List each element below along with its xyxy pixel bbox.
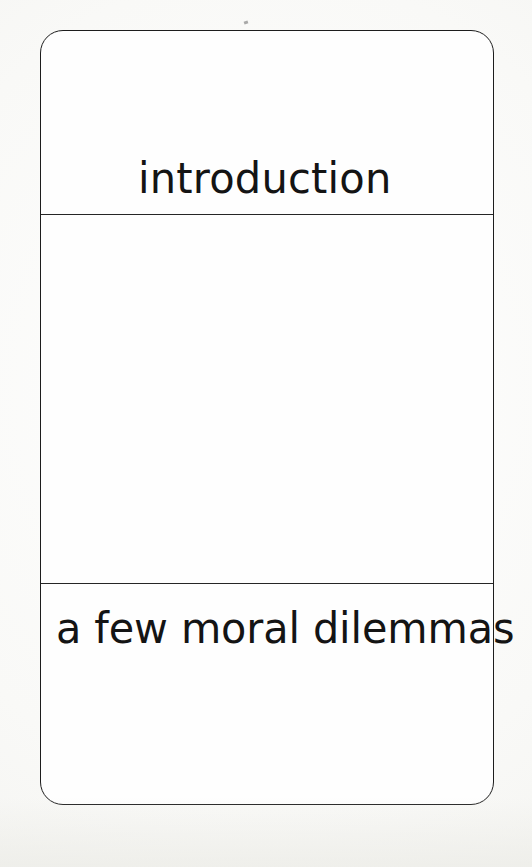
frame-band-middle (41, 215, 493, 583)
chapter-divider-frame: introduction a few moral dilemmas (40, 30, 494, 805)
chapter-subtitle: a few moral dilemmas (56, 608, 514, 650)
scan-artifact-speck (244, 20, 249, 24)
frame-band-top: introduction (41, 31, 493, 214)
blank-content-area (41, 215, 493, 583)
scanned-page: introduction a few moral dilemmas (0, 0, 532, 867)
frame-band-bottom: a few moral dilemmas (41, 584, 493, 805)
scan-edge-shading (0, 797, 532, 867)
chapter-title: introduction (138, 158, 391, 200)
